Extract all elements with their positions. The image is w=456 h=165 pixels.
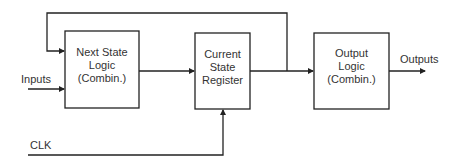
next-state-logic-line-2: Logic (89, 59, 116, 71)
register-line-2: State (210, 61, 236, 73)
current-state-register-block: Current State Register (195, 33, 250, 109)
inputs-label: Inputs (21, 73, 51, 85)
next-state-logic-block: Next State Logic (Combin.) (65, 31, 139, 108)
clk-wire (28, 110, 223, 155)
clk-label: CLK (30, 139, 52, 151)
register-line-3: Register (202, 74, 243, 86)
outputs-label: Outputs (400, 53, 439, 65)
register-line-1: Current (204, 48, 241, 60)
output-logic-line-3: (Combin.) (327, 73, 375, 85)
next-state-logic-line-3: (Combin.) (78, 72, 126, 84)
output-logic-block: Output Logic (Combin.) (314, 33, 389, 109)
fsm-block-diagram: Inputs Next State Logic (Combin.) Curren… (0, 0, 456, 165)
next-state-logic-line-1: Next State (76, 46, 127, 58)
output-logic-line-1: Output (335, 47, 368, 59)
output-logic-line-2: Logic (338, 60, 365, 72)
